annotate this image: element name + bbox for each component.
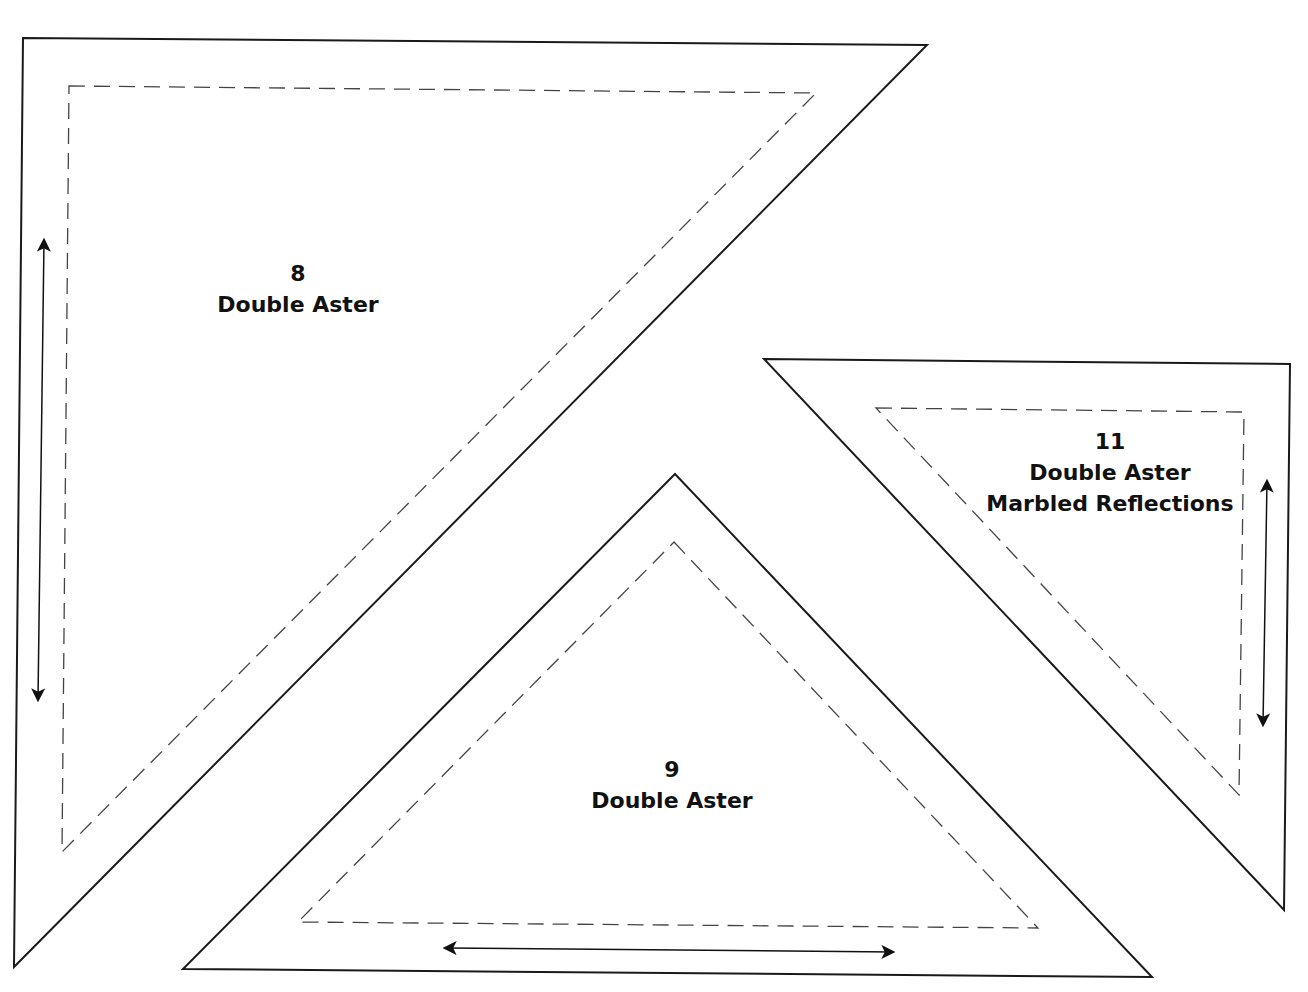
piece-11-grain-arrow-icon: [1263, 481, 1267, 725]
piece-11-number: 11: [986, 426, 1233, 457]
piece-8-label: 8 Double Aster: [217, 258, 378, 320]
piece-11-label: 11 Double Aster Marbled Reflections: [986, 426, 1233, 519]
piece-8-cut-line: [14, 38, 927, 967]
piece-9: [183, 474, 1152, 977]
piece-11-fabric: Marbled Reflections: [986, 488, 1233, 519]
piece-8: [14, 38, 927, 967]
piece-9-grain-arrow-icon: [445, 948, 893, 952]
piece-9-name: Double Aster: [591, 785, 752, 816]
piece-11-name: Double Aster: [986, 457, 1233, 488]
piece-8-seam-line: [62, 86, 816, 852]
piece-9-number: 9: [591, 754, 752, 785]
piece-9-cut-line: [183, 474, 1152, 977]
piece-8-grain-arrow-icon: [38, 240, 44, 700]
piece-8-number: 8: [217, 258, 378, 289]
piece-9-seam-line: [298, 542, 1038, 928]
piece-9-label: 9 Double Aster: [591, 754, 752, 816]
piece-8-name: Double Aster: [217, 289, 378, 320]
